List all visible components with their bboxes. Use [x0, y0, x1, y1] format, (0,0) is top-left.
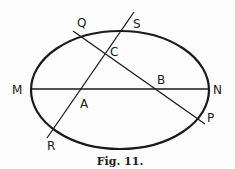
line-qp	[73, 31, 205, 124]
label-s: S	[133, 17, 141, 31]
figure-caption: Fig. 11.	[97, 155, 143, 168]
label-c: C	[110, 45, 118, 59]
diagram-canvas: Q S C B M N A P R Fig. 11.	[0, 0, 235, 169]
label-r: R	[47, 139, 55, 153]
ellipse-chords-figure: Q S C B M N A P R Fig. 11.	[0, 0, 235, 169]
label-b: B	[157, 73, 165, 87]
label-m: M	[12, 83, 22, 97]
label-p: P	[207, 111, 214, 125]
label-n: N	[213, 83, 222, 97]
label-a: A	[80, 97, 89, 111]
label-q: Q	[77, 16, 86, 30]
ellipse	[31, 31, 209, 149]
line-rs	[47, 12, 134, 138]
